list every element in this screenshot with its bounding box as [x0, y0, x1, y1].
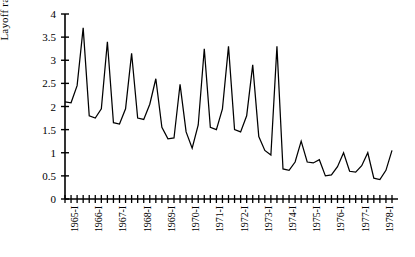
x-tick-label: 1973-I	[263, 206, 274, 232]
x-tick-label: 1974-I	[287, 206, 298, 232]
y-tick-label: 3.5	[30, 31, 56, 43]
x-tick-label: 1969-I	[166, 206, 177, 232]
data-series-line	[65, 28, 392, 180]
x-tick-label: 1970-I	[190, 206, 201, 232]
y-tick-label: 0.5	[30, 170, 56, 182]
plot-area	[0, 0, 415, 257]
x-tick-label: 1977-I	[360, 206, 371, 232]
x-tick-label: 1976-I	[335, 206, 346, 232]
x-tick-label: 1971-I	[214, 206, 225, 232]
y-tick-label: 2	[30, 101, 56, 113]
x-tick-label: 1978-I	[384, 206, 395, 232]
y-tick-label: 1	[30, 147, 56, 159]
y-tick-label: 4	[30, 8, 56, 20]
y-tick-label: 1.5	[30, 124, 56, 136]
chart-figure: Layoff rate 00.511.522.533.54 1965-I1966…	[0, 0, 415, 257]
y-tick-label: 2.5	[30, 77, 56, 89]
x-tick-label: 1975-I	[311, 206, 322, 232]
y-tick-label: 0	[30, 193, 56, 205]
x-tick-label: 1966-I	[93, 206, 104, 232]
x-tick-label: 1968-I	[142, 206, 153, 232]
x-tick-label: 1965-I	[69, 206, 80, 232]
x-tick-label: 1967-I	[117, 206, 128, 232]
x-tick-marks	[65, 195, 392, 203]
x-tick-label: 1972-I	[239, 206, 250, 232]
y-tick-label: 3	[30, 54, 56, 66]
